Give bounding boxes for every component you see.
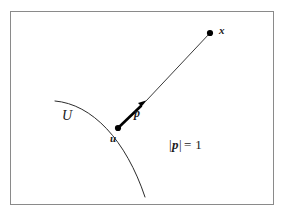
figure-frame: [11, 12, 274, 205]
norm-bar-right: |: [179, 137, 182, 152]
figure-canvas: U u p x |p|= 1: [0, 0, 285, 217]
target-point-label-x: x: [219, 25, 225, 36]
base-point-label-u: u: [110, 133, 116, 144]
direction-vector-label-p: p: [134, 107, 140, 119]
norm-equation: |p|= 1: [169, 138, 202, 151]
target-point-dot: [207, 30, 213, 36]
base-point-dot: [115, 125, 121, 131]
norm-equals-sign: =: [184, 137, 192, 152]
norm-vector-symbol: p: [172, 137, 179, 152]
set-label-U: U: [62, 109, 72, 123]
diagram-svg: [0, 0, 285, 217]
norm-value: 1: [195, 137, 202, 152]
